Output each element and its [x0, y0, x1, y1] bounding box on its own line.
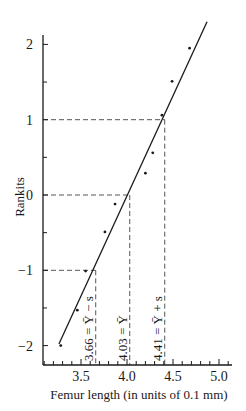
y-axis-title: Rankits [12, 177, 27, 217]
data-point [188, 47, 191, 50]
cropped-caption-fragment [0, 406, 246, 411]
data-point [59, 344, 62, 347]
data-point [76, 309, 79, 312]
normal-probability-plot: −2−10123.54.04.55.0 3.66 = Ȳ − s4.03 = Ȳ… [0, 0, 246, 406]
x-tick-label: 5.0 [210, 369, 228, 384]
reference-dashed-lines [43, 120, 165, 365]
reference-line-label: 4.41 = Ȳ + s [150, 296, 165, 361]
x-axis-title: Femur length (in units of 0.1 mm) [50, 387, 227, 402]
y-tick-label: −2 [18, 339, 33, 354]
reference-line-label: 4.03 = Ȳ [115, 314, 130, 361]
y-tick-label: 0 [26, 188, 33, 203]
x-tick-label: 4.5 [164, 369, 182, 384]
y-tick-label: 2 [26, 37, 33, 52]
reference-line-label: 3.66 = Ȳ − s [81, 296, 96, 361]
x-tick-label: 4.0 [118, 369, 136, 384]
data-point [104, 230, 107, 233]
data-point [84, 270, 87, 273]
data-point [171, 80, 174, 83]
data-point [144, 172, 147, 175]
x-tick-label: 3.5 [72, 369, 90, 384]
y-tick-label: 1 [26, 113, 33, 128]
data-point [161, 114, 164, 117]
y-tick-label: −1 [18, 263, 33, 278]
data-point [151, 151, 154, 154]
fitted-line [59, 22, 207, 344]
data-point [114, 203, 117, 206]
annotation-labels: 3.66 = Ȳ − s4.03 = Ȳ4.41 = Ȳ + s [81, 296, 165, 361]
